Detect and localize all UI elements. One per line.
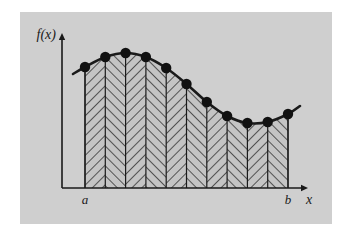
hatched-strip: [105, 12, 125, 188]
hatched-strip: [126, 12, 146, 188]
data-point-marker: [161, 63, 171, 73]
hatched-strip: [85, 12, 105, 188]
data-point-marker: [202, 97, 212, 107]
hatched-strip: [268, 12, 288, 188]
y-axis-label: f(x): [37, 27, 57, 43]
hatched-strip: [146, 12, 166, 188]
x-axis-label: x: [305, 192, 313, 207]
data-point-marker: [283, 109, 293, 119]
lower-bound-label-a: a: [82, 192, 89, 207]
data-point-marker: [80, 62, 90, 72]
hatched-strip: [166, 12, 186, 188]
hatched-strip: [247, 12, 267, 188]
x-axis-arrowhead: [301, 185, 308, 191]
data-point-marker: [222, 111, 232, 121]
data-point-marker: [120, 48, 130, 58]
data-point-marker: [100, 52, 110, 62]
data-point-marker: [141, 52, 151, 62]
data-point-marker: [263, 117, 273, 127]
hatched-strip: [227, 12, 247, 188]
integration-diagram-svg: f(x) x a b: [20, 12, 332, 224]
data-point-marker: [242, 118, 252, 128]
figure-root: f(x) x a b: [0, 0, 352, 239]
y-axis-arrowhead: [59, 33, 65, 40]
upper-bound-label-b: b: [285, 192, 292, 207]
data-point-marker: [181, 79, 191, 89]
plot-panel: f(x) x a b: [20, 12, 332, 224]
